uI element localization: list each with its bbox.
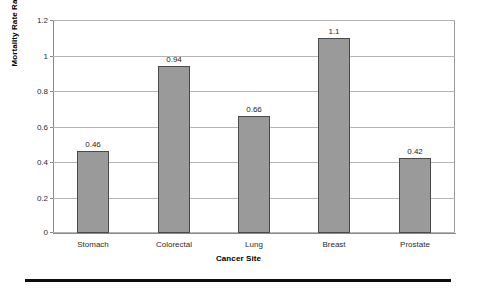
x-axis-line (53, 233, 456, 234)
bottom-horizontal-rule (25, 279, 451, 282)
y-tick-label: 1 (44, 52, 48, 61)
gridline: 0.8 (53, 91, 455, 92)
x-category-label: Colorectal (156, 240, 192, 249)
bar-value-label: 0.66 (246, 105, 262, 114)
y-tick-label: 0 (44, 228, 48, 237)
x-category-label: Breast (322, 240, 345, 249)
bar: 0.46 (77, 151, 109, 233)
x-category-label: Lung (245, 240, 263, 249)
y-tick-label: 0.4 (37, 158, 48, 167)
gridline: 1 (53, 56, 455, 57)
y-tick-mark (50, 232, 53, 233)
x-axis-title: Cancer Site (0, 254, 477, 263)
bar: 1.1 (318, 38, 350, 233)
x-category-label: Stomach (77, 240, 109, 249)
bar-value-label: 0.94 (166, 55, 182, 64)
x-category-label: Prostate (400, 240, 430, 249)
bar-chart-figure: Mortality Rate Ratio 00.20.40.60.811.20.… (0, 0, 477, 262)
y-tick-mark (50, 20, 53, 21)
y-tick-label: 1.2 (37, 16, 48, 25)
y-tick-mark (50, 198, 53, 199)
y-axis-title: Mortality Rate Ratio (9, 0, 21, 78)
y-tick-mark (50, 162, 53, 163)
plot-area: 00.20.40.60.811.20.460.940.661.10.42 (53, 20, 455, 233)
gridline: 1.2 (53, 20, 455, 21)
chart-screenshot: Mortality Rate Ratio 00.20.40.60.811.20.… (0, 0, 477, 288)
y-tick-mark (50, 127, 53, 128)
y-tick-label: 0.8 (37, 87, 48, 96)
bar-value-label: 1.1 (328, 27, 339, 36)
bar-value-label: 0.42 (407, 147, 423, 156)
y-tick-mark (50, 91, 53, 92)
bar-value-label: 0.46 (85, 140, 101, 149)
y-tick-mark (50, 56, 53, 57)
bar: 0.66 (238, 116, 270, 233)
bar: 0.42 (399, 158, 431, 233)
y-tick-label: 0.2 (37, 194, 48, 203)
y-tick-label: 0.6 (37, 123, 48, 132)
bar: 0.94 (158, 66, 190, 233)
